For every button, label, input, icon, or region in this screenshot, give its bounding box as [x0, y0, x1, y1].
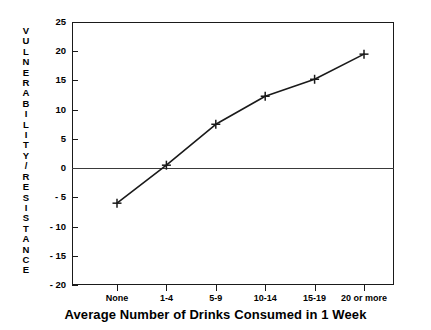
y-tick-mark	[72, 110, 78, 111]
y-tick-label: 25	[30, 16, 66, 27]
y-tick-label: - 5	[30, 191, 66, 202]
y-tick-label: 20	[30, 45, 66, 56]
y-axis-title-char: A	[23, 234, 30, 244]
y-tick-label: - 20	[30, 279, 66, 290]
zero-baseline	[72, 168, 394, 169]
y-tick-mark	[72, 80, 78, 81]
y-tick-mark	[72, 22, 78, 23]
x-tick-label: 10-14	[254, 293, 277, 303]
x-tick-label: 15-19	[303, 293, 326, 303]
y-tick-mark	[72, 139, 78, 140]
y-tick-label: - 15	[30, 250, 66, 261]
chart-figure: VULNERABILITY/RESISTANCE 2520151050- 5- …	[0, 0, 431, 330]
y-tick-label: - 10	[30, 221, 66, 232]
x-tick-mark	[315, 285, 316, 291]
y-tick-mark	[72, 256, 78, 257]
y-tick-label: 10	[30, 104, 66, 115]
x-tick-label: 20 or more	[341, 293, 387, 303]
x-tick-mark	[265, 285, 266, 291]
y-tick-label: 15	[30, 74, 66, 85]
plot-area	[72, 22, 394, 285]
y-tick-label: 5	[30, 133, 66, 144]
y-tick-mark	[72, 197, 78, 198]
x-tick-label: None	[106, 293, 129, 303]
x-tick-mark	[364, 285, 365, 291]
x-axis-title: Average Number of Drinks Consumed in 1 W…	[0, 307, 431, 322]
y-tick-label: 0	[30, 162, 66, 173]
y-axis-title-char: E	[23, 265, 29, 275]
y-tick-mark	[72, 285, 78, 286]
y-tick-mark	[72, 227, 78, 228]
x-tick-mark	[117, 285, 118, 291]
y-axis-title-char: E	[23, 182, 29, 192]
x-tick-label: 1-4	[160, 293, 173, 303]
y-tick-mark	[72, 51, 78, 52]
x-tick-mark	[216, 285, 217, 291]
x-tick-mark	[166, 285, 167, 291]
x-tick-label: 5-9	[209, 293, 222, 303]
